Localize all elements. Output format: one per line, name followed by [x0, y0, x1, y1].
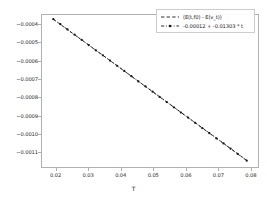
legend-item-0: (E(t,f0) - E(v_t))	[160, 12, 251, 21]
data-point-marker	[73, 34, 75, 36]
x-tick-mark	[153, 168, 154, 171]
x-tick-mark	[88, 168, 89, 171]
x-tick-label: 0.02	[44, 172, 68, 178]
y-tick-label: −0.0010	[2, 131, 38, 137]
legend-dashdot-marker-icon	[160, 22, 180, 30]
y-tick-label: −0.0009	[2, 113, 38, 119]
x-tick-label: 0.04	[109, 172, 133, 178]
data-point-marker	[123, 70, 125, 72]
data-point-marker	[151, 91, 153, 93]
x-tick-mark	[121, 168, 122, 171]
x-tick-label: 0.03	[76, 172, 100, 178]
data-point-marker	[102, 54, 104, 56]
data-point-marker	[180, 111, 182, 113]
data-point-marker	[130, 75, 132, 77]
data-point-marker	[116, 65, 118, 67]
data-point-marker	[137, 80, 139, 82]
data-point-marker	[215, 137, 217, 139]
x-axis-label: T	[0, 185, 267, 192]
data-point-marker	[246, 160, 248, 162]
y-tick-label: −0.0005	[2, 39, 38, 45]
data-point-marker	[222, 142, 224, 144]
data-point-marker	[95, 49, 97, 51]
x-tick-mark	[251, 168, 252, 171]
data-point-marker	[229, 148, 231, 150]
x-tick-label: 0.07	[206, 172, 230, 178]
y-tick-label: −0.0006	[2, 58, 38, 64]
data-point-marker	[159, 96, 161, 98]
data-point-marker	[66, 28, 68, 30]
data-point-marker	[208, 132, 210, 134]
plot-area	[41, 14, 259, 168]
legend: (E(t,f0) - E(v_t)) -0.00012 + -0.01303 *…	[156, 9, 255, 33]
data-point-marker	[201, 127, 203, 129]
x-tick-label: 0.06	[174, 172, 198, 178]
legend-item-1: -0.00012 + -0.01303 * t	[160, 21, 251, 30]
y-tick-label: −0.0007	[2, 76, 38, 82]
data-point-marker	[144, 85, 146, 87]
data-point-marker	[194, 122, 196, 124]
data-point-marker	[109, 59, 111, 61]
data-point-marker	[173, 106, 175, 108]
data-point-marker	[81, 39, 83, 41]
x-tick-label: 0.08	[239, 172, 263, 178]
x-tick-mark	[56, 168, 57, 171]
y-tick-label: −0.0004	[2, 21, 38, 27]
legend-label-difference: (E(t,f0) - E(v_t))	[183, 13, 222, 21]
data-plot	[42, 15, 258, 167]
data-point-marker	[52, 18, 54, 20]
chart-figure: −0.0004−0.0005−0.0006−0.0007−0.0008−0.00…	[0, 0, 267, 197]
data-point-marker	[166, 101, 168, 103]
x-tick-mark	[218, 168, 219, 171]
data-point-marker	[59, 23, 61, 25]
data-point-marker	[237, 153, 239, 155]
x-tick-label: 0.05	[141, 172, 165, 178]
data-point-marker	[88, 44, 90, 46]
legend-label-fit: -0.00012 + -0.01303 * t	[183, 22, 243, 30]
y-tick-label: −0.0011	[2, 149, 38, 155]
y-tick-label: −0.0008	[2, 94, 38, 100]
x-tick-mark	[186, 168, 187, 171]
legend-dashed-line-icon	[160, 13, 180, 21]
data-point-marker	[187, 116, 189, 118]
